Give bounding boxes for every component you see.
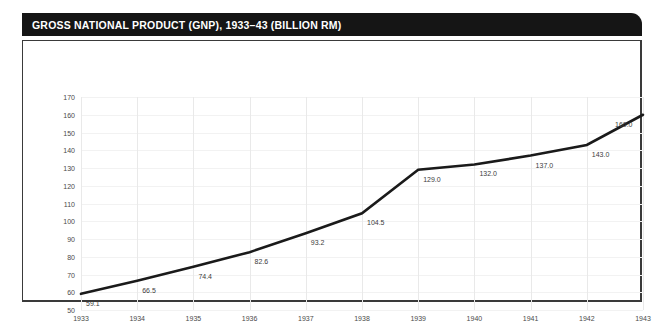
plot-area: 5060708090100110120130140150160170 19331… bbox=[81, 97, 643, 310]
data-point-label: 66.5 bbox=[142, 287, 156, 294]
data-point-label: 82.6 bbox=[255, 258, 269, 265]
chart-title-bar: GROSS NATIONAL PRODUCT (GNP), 1933–43 (B… bbox=[22, 13, 642, 36]
x-tick-label: 1941 bbox=[523, 315, 539, 322]
gridline-horizontal bbox=[81, 310, 643, 311]
y-tick-label: 50 bbox=[67, 307, 75, 314]
data-point-label: 137.0 bbox=[536, 162, 554, 169]
page-title: GROSS NATIONAL PRODUCT (GNP), 1933–43 (B… bbox=[32, 19, 341, 31]
x-tick-label: 1937 bbox=[298, 315, 314, 322]
y-tick-label: 100 bbox=[63, 218, 75, 225]
data-point-label: 129.0 bbox=[423, 176, 441, 183]
data-point-label: 143.0 bbox=[592, 151, 610, 158]
data-point-label: 59.1 bbox=[86, 300, 100, 307]
y-tick-label: 70 bbox=[67, 271, 75, 278]
x-tick-label: 1943 bbox=[635, 315, 651, 322]
y-tick-label: 140 bbox=[63, 147, 75, 154]
y-tick-label: 60 bbox=[67, 289, 75, 296]
x-tick-label: 1933 bbox=[73, 315, 89, 322]
gnp-chart-figure: GROSS NATIONAL PRODUCT (GNP), 1933–43 (B… bbox=[0, 0, 664, 322]
x-tick-label: 1942 bbox=[579, 315, 595, 322]
y-tick-label: 90 bbox=[67, 236, 75, 243]
gridline-vertical bbox=[643, 97, 644, 310]
data-point-label: 104.5 bbox=[367, 219, 385, 226]
y-tick-label: 120 bbox=[63, 182, 75, 189]
chart-frame: 5060708090100110120130140150160170 19331… bbox=[22, 40, 642, 302]
y-tick-label: 80 bbox=[67, 253, 75, 260]
x-tick-label: 1935 bbox=[186, 315, 202, 322]
gnp-line-series bbox=[81, 97, 643, 310]
y-tick-label: 170 bbox=[63, 94, 75, 101]
data-point-label: 93.2 bbox=[311, 239, 325, 246]
x-tick-label: 1934 bbox=[129, 315, 145, 322]
y-tick-label: 110 bbox=[64, 200, 75, 207]
x-tick-label: 1938 bbox=[354, 315, 370, 322]
data-point-label: 74.4 bbox=[198, 273, 212, 280]
x-tick-label: 1939 bbox=[410, 315, 426, 322]
y-tick-label: 150 bbox=[63, 129, 75, 136]
data-point-label: 160.0 bbox=[615, 121, 633, 128]
y-tick-label: 160 bbox=[63, 111, 75, 118]
x-tick-label: 1940 bbox=[467, 315, 483, 322]
x-tick-label: 1936 bbox=[242, 315, 258, 322]
y-tick-label: 130 bbox=[63, 165, 75, 172]
data-point-label: 132.0 bbox=[479, 170, 497, 177]
